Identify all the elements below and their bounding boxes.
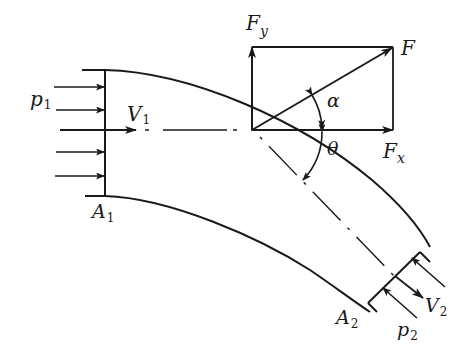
label-a2: A2 xyxy=(334,306,358,331)
label-v2: V2 xyxy=(425,294,447,319)
label-p2: p2 xyxy=(397,318,418,343)
label-theta: θ xyxy=(327,137,339,159)
v2-arrow xyxy=(395,276,423,298)
f-resultant-arrow xyxy=(252,48,392,130)
label-v1: V1 xyxy=(127,102,150,127)
label-a1: A1 xyxy=(90,200,114,225)
bent-pipe-diagram: p1 V1 A1 Fy F Fx α θ A2 V2 p2 xyxy=(0,0,470,359)
alpha-arc xyxy=(312,95,322,128)
pipe-lower-wall xyxy=(105,196,370,312)
label-p1: p1 xyxy=(30,87,51,112)
pipe-upper-wall xyxy=(105,70,430,247)
inlet-pressure-arrows xyxy=(54,87,104,176)
theta-arc xyxy=(303,132,322,180)
outlet-tick-upper xyxy=(420,252,430,262)
label-f: F xyxy=(400,36,416,60)
label-fx: Fx xyxy=(382,139,405,166)
label-alpha: α xyxy=(327,89,340,111)
label-fy: Fy xyxy=(245,11,269,39)
outlet-section-line xyxy=(368,252,420,303)
